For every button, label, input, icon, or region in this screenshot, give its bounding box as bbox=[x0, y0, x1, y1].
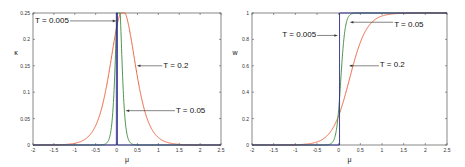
y-tick-label: 0.15 bbox=[20, 63, 30, 69]
x-tick-label: 0 bbox=[115, 147, 118, 153]
plot-frame bbox=[33, 13, 221, 145]
y-tick-label: 0.6 bbox=[242, 63, 249, 69]
arrowhead-icon bbox=[350, 21, 353, 24]
x-tick-label: 2 bbox=[199, 147, 202, 153]
y-tick-label: 0.8 bbox=[242, 36, 249, 42]
x-tick-label: 2 bbox=[424, 147, 427, 153]
arrowhead-icon bbox=[113, 20, 116, 23]
y-axis-label: κ bbox=[14, 49, 18, 56]
series-t-0-2 bbox=[33, 13, 221, 145]
w-plot: -2-1.5-1-0.500.511.522.500.20.40.60.81μw… bbox=[231, 10, 450, 164]
x-tick-label: 1.5 bbox=[176, 147, 183, 153]
x-tick-label: 1.5 bbox=[400, 147, 407, 153]
x-tick-label: -1.5 bbox=[269, 147, 278, 153]
y-axis-label: w bbox=[231, 49, 238, 56]
y-tick-label: 1 bbox=[246, 10, 249, 16]
y-tick-label: 0.1 bbox=[23, 89, 30, 95]
annotation-label: T = 0.005 bbox=[35, 16, 69, 25]
x-tick-label: 1 bbox=[157, 147, 160, 153]
series-t-0-05 bbox=[33, 13, 221, 145]
y-tick-label: 0 bbox=[246, 142, 249, 148]
arrowhead-icon bbox=[334, 34, 337, 37]
x-tick-label: -1 bbox=[73, 147, 78, 153]
x-tick-label: -0.5 bbox=[313, 147, 322, 153]
annotation-label: T = 0.2 bbox=[380, 60, 406, 69]
x-tick-label: 2.5 bbox=[218, 147, 225, 153]
x-tick-label: -2 bbox=[250, 147, 255, 153]
y-tick-label: 0.4 bbox=[242, 89, 249, 95]
x-axis-label: μ bbox=[125, 156, 129, 164]
x-tick-label: -1.5 bbox=[50, 147, 59, 153]
arrowhead-icon bbox=[137, 65, 140, 68]
annotation-label: T = 0.2 bbox=[163, 61, 189, 70]
annotation-label: T = 0.05 bbox=[176, 106, 206, 115]
y-tick-label: 0.2 bbox=[242, 116, 249, 122]
x-axis-label: μ bbox=[347, 156, 351, 164]
x-tick-label: 1 bbox=[381, 147, 384, 153]
x-tick-label: -1 bbox=[293, 147, 298, 153]
figure: -2-1.5-1-0.500.511.522.500.050.10.150.20… bbox=[0, 0, 465, 167]
kappa-plot: -2-1.5-1-0.500.511.522.500.050.10.150.20… bbox=[14, 10, 224, 164]
x-tick-label: -0.5 bbox=[91, 147, 100, 153]
x-tick-label: 2.5 bbox=[444, 147, 451, 153]
y-tick-label: 0 bbox=[27, 142, 30, 148]
x-tick-label: 0.5 bbox=[134, 147, 141, 153]
y-tick-label: 0.05 bbox=[20, 116, 30, 122]
arrowhead-icon bbox=[126, 109, 129, 112]
series-t-0-2 bbox=[252, 13, 447, 145]
x-tick-label: -2 bbox=[31, 147, 36, 153]
x-tick-label: 0 bbox=[337, 147, 340, 153]
y-tick-label: 0.25 bbox=[20, 10, 30, 16]
series-t-0-005 bbox=[33, 13, 221, 145]
y-tick-label: 0.2 bbox=[23, 36, 30, 42]
annotation-label: T = 0.05 bbox=[394, 20, 424, 29]
arrowhead-icon bbox=[350, 65, 353, 68]
annotation-label: T = 0.005 bbox=[282, 30, 316, 39]
x-tick-label: 0.5 bbox=[357, 147, 364, 153]
